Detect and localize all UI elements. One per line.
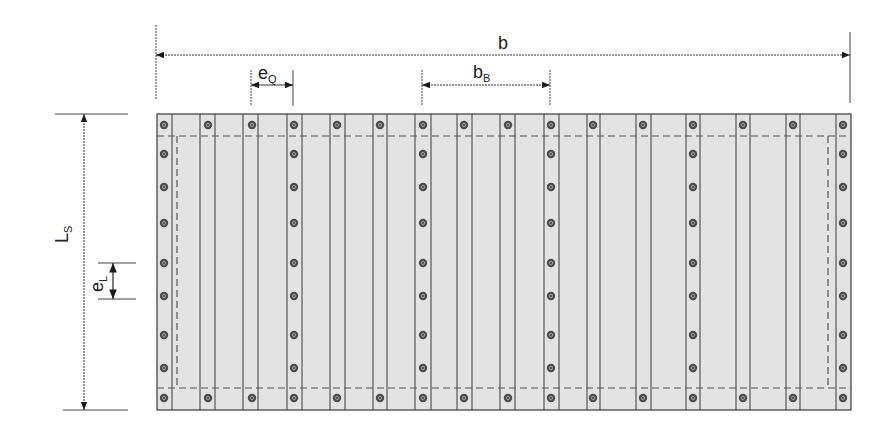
bolt-icon bbox=[739, 121, 747, 129]
bolt-icon bbox=[547, 292, 555, 300]
bolt-icon bbox=[419, 394, 427, 402]
bolt-icon bbox=[639, 121, 647, 129]
bolt-icon bbox=[160, 121, 168, 129]
bolt-icon bbox=[419, 183, 427, 191]
bolt-icon bbox=[639, 394, 647, 402]
bolt-icon bbox=[689, 331, 697, 339]
bolt-icon bbox=[160, 219, 168, 227]
bolt-icon bbox=[839, 394, 847, 402]
bolt-icon bbox=[547, 259, 555, 267]
bolt-icon bbox=[290, 219, 298, 227]
bolt-icon bbox=[460, 121, 468, 129]
bolt-icon bbox=[160, 150, 168, 158]
dimension-b-b: bB bbox=[422, 62, 550, 106]
bolt-icon bbox=[547, 219, 555, 227]
bolt-icon bbox=[290, 331, 298, 339]
bolt-icon bbox=[589, 394, 597, 402]
bolt-icon bbox=[839, 292, 847, 300]
bolt-icon bbox=[204, 394, 212, 402]
bolt-icon bbox=[290, 150, 298, 158]
bolt-icon bbox=[460, 394, 468, 402]
bolt-icon bbox=[290, 364, 298, 372]
bolt-icon bbox=[739, 394, 747, 402]
bolt-icon bbox=[504, 394, 512, 402]
bolt-icon bbox=[789, 121, 797, 129]
bolt-icon bbox=[160, 292, 168, 300]
eq-label: eQ bbox=[258, 63, 277, 85]
bolt-icon bbox=[160, 183, 168, 191]
bolt-icon bbox=[290, 259, 298, 267]
bolt-icon bbox=[689, 150, 697, 158]
panel-area bbox=[157, 114, 851, 410]
bolt-icon bbox=[419, 292, 427, 300]
bolt-icon bbox=[160, 364, 168, 372]
bolt-icon bbox=[547, 394, 555, 402]
bolt-icon bbox=[419, 219, 427, 227]
bolt-icon bbox=[839, 150, 847, 158]
bolt-icon bbox=[160, 259, 168, 267]
bolt-icon bbox=[689, 183, 697, 191]
el-label: eL bbox=[87, 276, 109, 292]
bolt-icon bbox=[689, 364, 697, 372]
bolt-icon bbox=[248, 394, 256, 402]
bolt-icon bbox=[419, 331, 427, 339]
bolt-icon bbox=[333, 121, 341, 129]
bolt-icon bbox=[839, 331, 847, 339]
bolt-icon bbox=[839, 219, 847, 227]
bolt-icon bbox=[419, 150, 427, 158]
bolt-icon bbox=[547, 150, 555, 158]
bolt-icon bbox=[248, 121, 256, 129]
dimension-e-l: eL bbox=[87, 263, 136, 299]
bolt-icon bbox=[204, 121, 212, 129]
dimension-l-s: LS bbox=[52, 114, 128, 410]
bb-label: bB bbox=[473, 62, 490, 84]
bolt-icon bbox=[839, 364, 847, 372]
bolt-icon bbox=[160, 331, 168, 339]
bolt-icon bbox=[547, 331, 555, 339]
bolt-icon bbox=[547, 183, 555, 191]
bolt-icon bbox=[689, 394, 697, 402]
bolt-icon bbox=[376, 121, 384, 129]
bolt-icon bbox=[689, 219, 697, 227]
bolt-icon bbox=[419, 364, 427, 372]
bolt-icon bbox=[290, 394, 298, 402]
bolt-icon bbox=[376, 394, 384, 402]
dimension-e-q: eQ bbox=[251, 63, 293, 106]
bolt-icon bbox=[547, 121, 555, 129]
bolt-icon bbox=[290, 292, 298, 300]
bolt-icon bbox=[419, 121, 427, 129]
bolt-icon bbox=[290, 121, 298, 129]
bolt-icon bbox=[839, 121, 847, 129]
bolt-icon bbox=[504, 121, 512, 129]
bolt-icon bbox=[333, 394, 341, 402]
bolt-icon bbox=[160, 394, 168, 402]
bolt-icon bbox=[839, 183, 847, 191]
bolt-icon bbox=[589, 121, 597, 129]
bolt-icon bbox=[419, 259, 427, 267]
bolt-icon bbox=[689, 259, 697, 267]
bolt-icon bbox=[547, 364, 555, 372]
bolt-icon bbox=[290, 183, 298, 191]
bolt-icon bbox=[839, 259, 847, 267]
bolt-icon bbox=[689, 292, 697, 300]
bolt-icon bbox=[789, 394, 797, 402]
bolted-panel-diagram: b eQ bB LS eL bbox=[0, 0, 879, 439]
bolt-icon bbox=[689, 121, 697, 129]
ls-label: LS bbox=[52, 226, 74, 243]
b-label: b bbox=[498, 33, 508, 53]
